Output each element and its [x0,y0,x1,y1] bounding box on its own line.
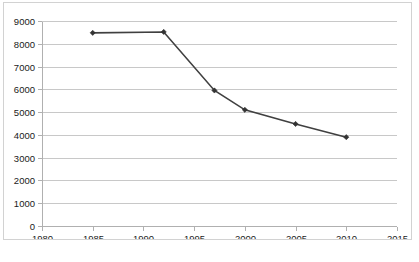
x-tick-label-2005: 2005 [286,233,307,240]
y-tick-label-5000: 5000 [14,107,35,118]
series-1-line [93,32,347,137]
y-tick-label-9000: 9000 [14,16,35,27]
y-axis-ticks-group [38,22,42,227]
y-tick-label-3000: 3000 [14,153,35,164]
x-tick-label-1985: 1985 [83,233,104,240]
series-1-markers-group [90,29,349,139]
x-axis-ticks-group [43,227,398,231]
y-tick-label-1000: 1000 [14,198,35,209]
gridlines-group [42,22,397,204]
y-tick-label-7000: 7000 [14,62,35,73]
y-tick-label-6000: 6000 [14,84,35,95]
line-chart: 0100020003000400050006000700080009000 19… [4,3,411,239]
y-tick-label-2000: 2000 [14,175,35,186]
chart-figure: 0100020003000400050006000700080009000 19… [0,0,419,262]
x-tick-label-2000: 2000 [235,233,256,240]
x-axis-tick-labels-group: 19801985199019952000200520102015 [32,233,408,240]
x-tick-label-1990: 1990 [133,233,154,240]
x-tick-label-1980: 1980 [32,233,53,240]
chart-plot-frame: 0100020003000400050006000700080009000 19… [3,2,412,240]
y-tick-label-0: 0 [30,221,35,232]
y-tick-label-8000: 8000 [14,39,35,50]
x-tick-label-2015: 2015 [387,233,408,240]
data-point-1985 [90,30,95,35]
caption-artifact [40,249,370,260]
y-tick-label-4000: 4000 [14,130,35,141]
y-axis-tick-labels-group: 0100020003000400050006000700080009000 [14,16,35,232]
x-tick-label-2010: 2010 [336,233,357,240]
data-point-2005 [293,121,298,126]
x-tick-label-1995: 1995 [184,233,205,240]
